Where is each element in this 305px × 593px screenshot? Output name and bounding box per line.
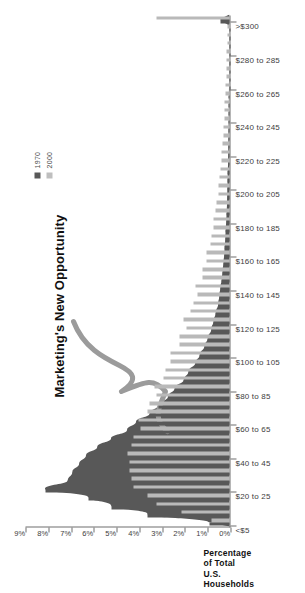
bar-1970[interactable] xyxy=(168,396,230,400)
bar-group[interactable] xyxy=(26,82,230,90)
bar-1970[interactable] xyxy=(229,120,230,124)
bar-group[interactable] xyxy=(26,342,230,350)
bar-1970[interactable] xyxy=(136,421,229,425)
bar-group[interactable] xyxy=(26,258,230,266)
bar-2000[interactable] xyxy=(222,150,230,154)
bar-1970[interactable] xyxy=(184,379,230,383)
bar-1970[interactable] xyxy=(88,497,229,501)
bar-1970[interactable] xyxy=(148,513,230,517)
bar-group[interactable] xyxy=(26,426,230,434)
bar-1970[interactable] xyxy=(208,338,230,342)
bar-group[interactable] xyxy=(26,467,230,475)
bar-1970[interactable] xyxy=(228,162,229,166)
bar-1970[interactable] xyxy=(225,237,229,241)
bar-group[interactable] xyxy=(26,283,230,291)
bar-1970[interactable] xyxy=(79,463,229,467)
bar-2000[interactable] xyxy=(191,309,230,313)
bar-1970[interactable] xyxy=(227,187,229,191)
bar-2000[interactable] xyxy=(224,116,229,120)
bar-group[interactable] xyxy=(26,275,230,283)
bar-2000[interactable] xyxy=(223,141,230,145)
bar-group[interactable] xyxy=(26,233,230,241)
bar-2000[interactable] xyxy=(227,58,230,62)
bar-2000[interactable] xyxy=(198,292,230,296)
bar-group[interactable] xyxy=(26,216,230,224)
bar-1970[interactable] xyxy=(229,95,230,99)
bar-1970[interactable] xyxy=(227,204,230,208)
bar-group[interactable] xyxy=(26,451,230,459)
bar-1970[interactable] xyxy=(68,480,230,484)
bar-group[interactable] xyxy=(26,292,230,300)
bar-2000[interactable] xyxy=(207,250,230,254)
bar-group[interactable] xyxy=(26,208,230,216)
bar-2000[interactable] xyxy=(210,242,229,246)
bar-2000[interactable] xyxy=(202,275,229,279)
bar-2000[interactable] xyxy=(225,108,230,112)
bar-group[interactable] xyxy=(26,266,230,274)
bar-group[interactable] xyxy=(26,459,230,467)
bar-2000[interactable] xyxy=(150,401,230,405)
bar-2000[interactable] xyxy=(223,133,229,137)
bar-2000[interactable] xyxy=(157,393,230,397)
bar-group[interactable] xyxy=(26,442,230,450)
bar-1970[interactable] xyxy=(175,388,230,392)
bar-group[interactable] xyxy=(26,183,230,191)
bar-2000[interactable] xyxy=(214,225,230,229)
bar-1970[interactable] xyxy=(228,153,229,157)
bar-2000[interactable] xyxy=(170,359,229,363)
bar-2000[interactable] xyxy=(186,326,229,330)
bar-1970[interactable] xyxy=(97,446,229,450)
bar-1970[interactable] xyxy=(204,346,229,350)
bar-2000[interactable] xyxy=(154,384,229,388)
bar-group[interactable] xyxy=(26,49,230,57)
bar-1970[interactable] xyxy=(45,488,230,492)
bar-group[interactable] xyxy=(26,250,230,258)
bar-group[interactable] xyxy=(26,107,230,115)
bar-group[interactable] xyxy=(26,15,230,23)
bar-group[interactable] xyxy=(26,99,230,107)
bar-2000[interactable] xyxy=(179,334,229,338)
bar-2000[interactable] xyxy=(148,493,230,497)
bar-2000[interactable] xyxy=(222,158,230,162)
bar-2000[interactable] xyxy=(216,208,230,212)
bar-1970[interactable] xyxy=(219,296,229,300)
bar-2000[interactable] xyxy=(132,476,230,480)
bar-group[interactable] xyxy=(26,325,230,333)
bar-group[interactable] xyxy=(26,384,230,392)
bar-1970[interactable] xyxy=(72,472,229,476)
bar-group[interactable] xyxy=(26,484,230,492)
bar-2000[interactable] xyxy=(195,284,229,288)
bar-1970[interactable] xyxy=(211,329,229,333)
bar-2000[interactable] xyxy=(182,510,230,514)
bar-1970[interactable] xyxy=(225,245,230,249)
bar-2000[interactable] xyxy=(170,351,229,355)
bar-2000[interactable] xyxy=(193,301,229,305)
bar-group[interactable] xyxy=(26,166,230,174)
bar-1970[interactable] xyxy=(200,354,230,358)
bar-2000[interactable] xyxy=(207,259,230,263)
bar-1970[interactable] xyxy=(216,312,230,316)
bar-1970[interactable] xyxy=(86,455,230,459)
bar-2000[interactable] xyxy=(157,16,230,20)
bar-group[interactable] xyxy=(26,375,230,383)
bar-group[interactable] xyxy=(26,308,230,316)
bar-1970[interactable] xyxy=(224,254,229,258)
bar-2000[interactable] xyxy=(179,342,229,346)
bar-2000[interactable] xyxy=(211,518,229,522)
bar-2000[interactable] xyxy=(227,33,229,37)
bar-group[interactable] xyxy=(26,359,230,367)
bar-group[interactable] xyxy=(26,434,230,442)
bar-1970[interactable] xyxy=(229,111,230,115)
bar-2000[interactable] xyxy=(202,267,229,271)
bar-group[interactable] xyxy=(26,501,230,509)
bar-1970[interactable] xyxy=(220,19,229,23)
bar-group[interactable] xyxy=(26,317,230,325)
bar-1970[interactable] xyxy=(226,220,229,224)
bar-group[interactable] xyxy=(26,132,230,140)
bar-1970[interactable] xyxy=(214,321,230,325)
bar-1970[interactable] xyxy=(228,170,230,174)
bar-group[interactable] xyxy=(26,24,230,32)
bar-2000[interactable] xyxy=(148,409,230,413)
bar-1970[interactable] xyxy=(229,86,230,90)
bar-2000[interactable] xyxy=(129,468,229,472)
